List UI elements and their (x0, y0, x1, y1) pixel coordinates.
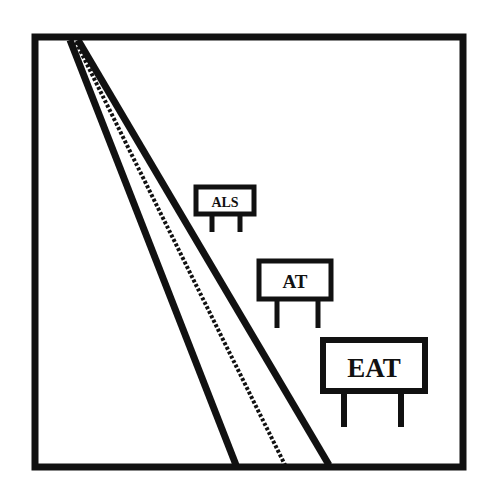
road (70, 40, 329, 465)
sign-at: AT (259, 261, 331, 328)
road-left-edge (70, 40, 236, 465)
road-right-edge (78, 40, 329, 465)
sign-label: EAT (347, 353, 401, 383)
road-center-dashed-line (76, 42, 285, 465)
sign-eat: EAT (323, 340, 425, 427)
sign-als: ALS (196, 187, 254, 232)
sign-label: ALS (211, 195, 238, 210)
illustration: ALS AT EAT (0, 0, 488, 497)
sign-label: AT (283, 271, 308, 292)
